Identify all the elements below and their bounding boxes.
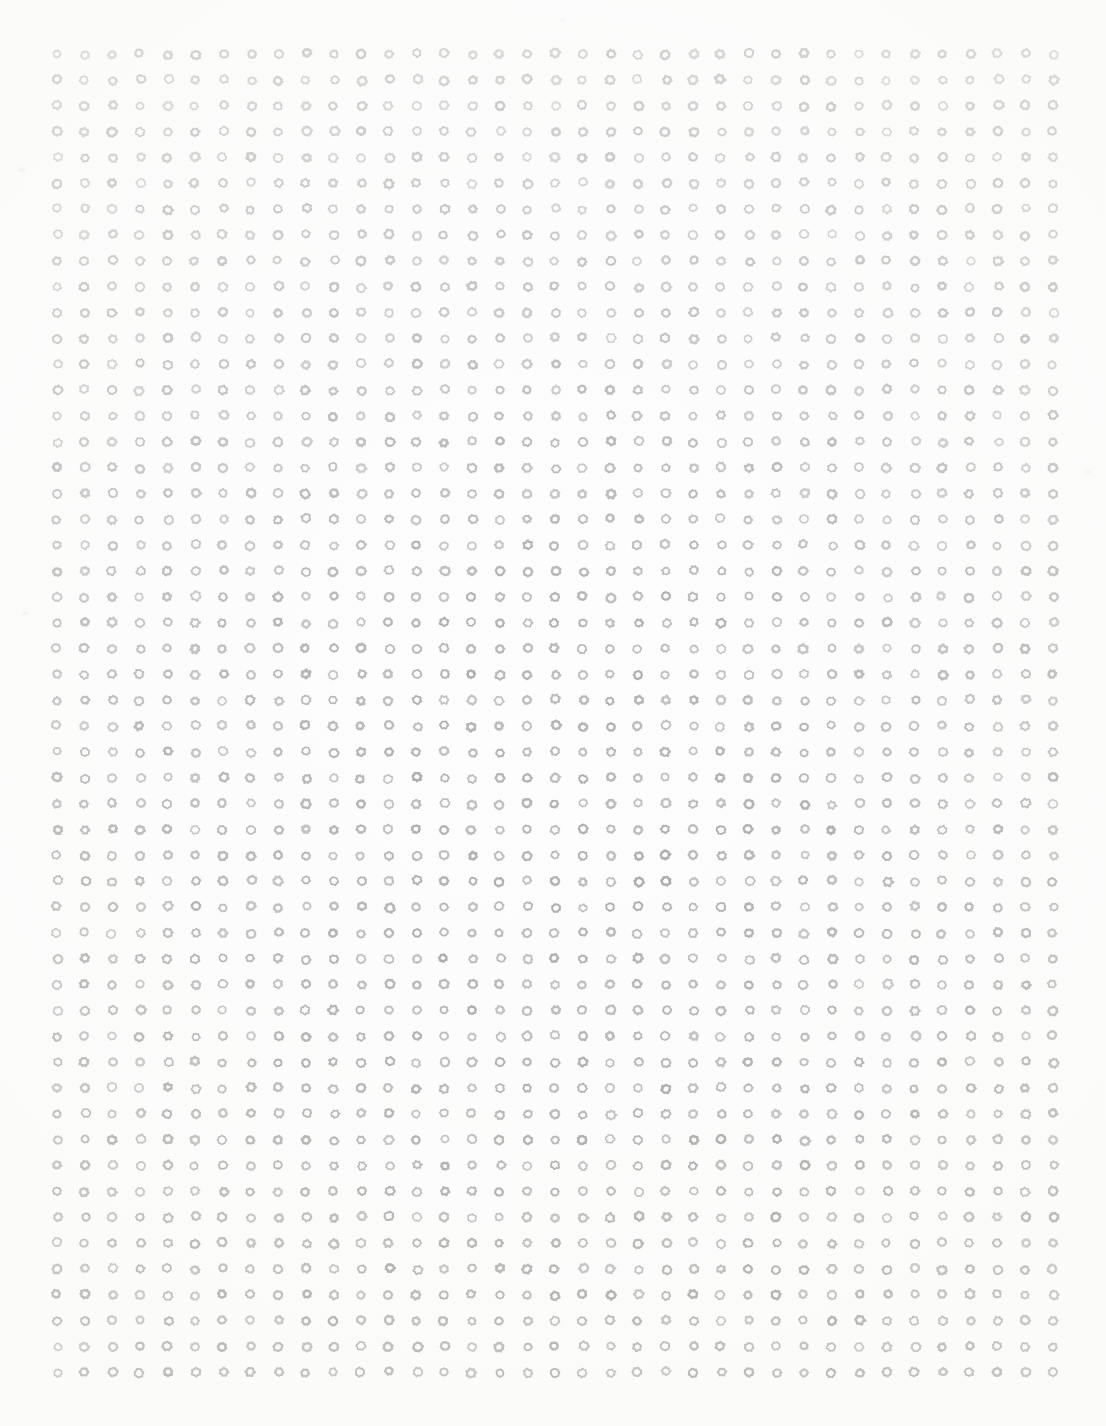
- ring-glyph: [159, 1260, 175, 1276]
- ring-glyph: [188, 381, 204, 397]
- ring-glyph: [1044, 1131, 1062, 1149]
- ring-glyph: [352, 1002, 369, 1019]
- ring-glyph: [1016, 1362, 1035, 1381]
- ring-glyph: [380, 484, 399, 503]
- ring-glyph: [130, 665, 148, 683]
- ring-glyph: [103, 381, 121, 399]
- ring-glyph: [464, 408, 481, 425]
- ring-glyph: [381, 175, 398, 192]
- ring-glyph: [103, 148, 122, 167]
- ring-glyph: [104, 1156, 121, 1173]
- ring-glyph: [324, 615, 341, 632]
- ring-glyph: [491, 1183, 508, 1200]
- ring-glyph: [186, 614, 205, 633]
- ring-glyph: [795, 1080, 813, 1098]
- ring-glyph: [796, 1208, 814, 1226]
- ring-glyph: [547, 124, 564, 141]
- ring-glyph: [242, 512, 259, 529]
- ring-glyph: [767, 329, 785, 347]
- ring-glyph: [934, 510, 952, 528]
- ring-glyph: [849, 201, 867, 219]
- ring-glyph: [794, 1285, 812, 1303]
- ring-glyph: [630, 1285, 648, 1303]
- ring-glyph: [463, 1053, 481, 1071]
- ring-glyph: [906, 1286, 923, 1303]
- ring-glyph: [380, 693, 397, 710]
- ring-glyph: [436, 873, 453, 890]
- ring-glyph: [877, 691, 895, 709]
- ring-glyph: [1017, 1104, 1035, 1122]
- ring-glyph: [270, 226, 287, 243]
- ring-glyph: [517, 847, 536, 866]
- ring-glyph: [352, 510, 370, 528]
- ring-glyph: [241, 201, 259, 219]
- ring-glyph: [1045, 200, 1062, 217]
- ring-glyph: [491, 588, 509, 606]
- ring-glyph: [408, 537, 424, 553]
- ring-glyph: [380, 354, 399, 373]
- ring-glyph: [905, 511, 924, 530]
- ring-glyph: [214, 742, 233, 761]
- ring-glyph: [1017, 1207, 1035, 1225]
- ring-glyph: [464, 898, 482, 916]
- ring-glyph: [547, 355, 565, 373]
- ring-glyph: [879, 1209, 896, 1226]
- ring-glyph: [243, 821, 260, 838]
- ring-glyph: [629, 1313, 646, 1330]
- ring-glyph: [878, 848, 895, 865]
- ring-glyph: [713, 924, 730, 941]
- ring-glyph: [1044, 768, 1062, 786]
- ring-glyph: [132, 769, 150, 787]
- ring-glyph: [767, 1208, 785, 1226]
- ring-glyph: [490, 174, 507, 191]
- ring-glyph: [518, 459, 536, 477]
- ring-glyph: [325, 821, 343, 839]
- ring-glyph: [519, 1313, 536, 1330]
- ring-glyph: [76, 1131, 93, 1148]
- ring-glyph: [657, 1105, 676, 1124]
- ring-glyph: [132, 279, 148, 295]
- ring-glyph: [436, 588, 452, 604]
- ring-glyph: [740, 846, 759, 865]
- ring-glyph: [242, 1234, 260, 1252]
- scanned-page: [0, 0, 1106, 1426]
- ring-glyph: [463, 45, 482, 64]
- ring-glyph: [794, 639, 813, 658]
- ring-glyph: [130, 382, 148, 400]
- ring-glyph: [214, 1055, 230, 1071]
- ring-glyph: [296, 174, 314, 192]
- ring-glyph: [769, 693, 785, 709]
- ring-glyph: [796, 458, 814, 476]
- ring-glyph: [75, 433, 94, 452]
- ring-glyph: [213, 303, 232, 322]
- ring-glyph: [906, 976, 923, 993]
- ring-glyph: [186, 175, 202, 191]
- ring-glyph: [794, 251, 813, 270]
- ring-glyph: [324, 277, 342, 295]
- ring-glyph: [381, 925, 398, 942]
- ring-glyph: [380, 795, 398, 813]
- glyph-row: [0, 744, 1106, 770]
- ring-glyph: [658, 692, 675, 709]
- ring-glyph: [492, 615, 509, 632]
- ring-glyph: [49, 1208, 66, 1225]
- ring-glyph: [989, 743, 1007, 761]
- ring-glyph: [381, 872, 398, 889]
- ring-glyph: [573, 614, 592, 633]
- ring-glyph: [574, 45, 592, 63]
- ring-glyph: [407, 433, 426, 452]
- ring-glyph: [739, 174, 758, 193]
- ring-glyph: [603, 924, 620, 941]
- ring-glyph: [573, 277, 591, 295]
- ring-glyph: [851, 123, 869, 141]
- ring-glyph: [850, 1106, 866, 1122]
- ring-glyph: [602, 820, 621, 839]
- ring-glyph: [242, 1209, 259, 1226]
- ring-glyph: [934, 278, 951, 295]
- ring-glyph: [767, 147, 786, 166]
- ring-glyph: [740, 821, 756, 837]
- ring-glyph: [877, 821, 895, 839]
- ring-glyph: [213, 225, 232, 244]
- ring-glyph: [629, 794, 647, 812]
- ring-glyph: [712, 588, 731, 607]
